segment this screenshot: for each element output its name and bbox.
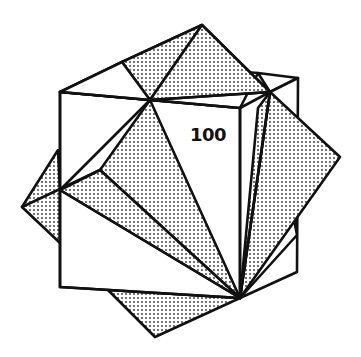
shaded-left-small-facet bbox=[22, 150, 60, 243]
cube-fold-diagram bbox=[0, 0, 361, 357]
figure-number-label: 100 bbox=[190, 124, 226, 145]
